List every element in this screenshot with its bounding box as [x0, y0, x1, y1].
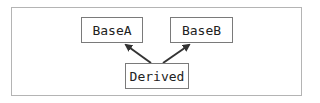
- node-basea: BaseA: [81, 17, 143, 43]
- arrow-derived-to-basea: [126, 45, 151, 63]
- node-label: Derived: [130, 69, 185, 84]
- node-derived: Derived: [125, 63, 189, 89]
- node-label: BaseA: [92, 23, 131, 38]
- node-baseb: BaseB: [170, 17, 233, 43]
- arrow-derived-to-baseb: [163, 45, 189, 63]
- node-label: BaseB: [182, 23, 221, 38]
